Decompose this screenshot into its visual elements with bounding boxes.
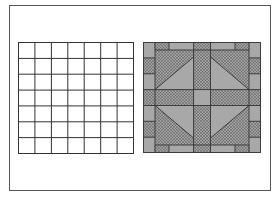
quilt-diagram [0, 0, 277, 198]
quilt-block [143, 42, 261, 153]
blank-grid [19, 43, 134, 154]
